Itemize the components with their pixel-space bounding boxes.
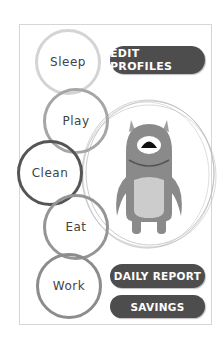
savings-button[interactable]: SAVINGS — [110, 295, 205, 318]
activity-label: Eat — [65, 220, 86, 234]
activity-eat[interactable]: Eat — [43, 194, 109, 260]
edit-profiles-button[interactable]: EDIT PROFILES — [110, 46, 205, 74]
activity-label: Sleep — [50, 55, 86, 69]
activity-label: Work — [53, 279, 85, 293]
daily-report-label: DAILY REPORT — [114, 270, 201, 282]
daily-report-button[interactable]: DAILY REPORT — [110, 264, 205, 288]
activity-label: Play — [62, 114, 89, 128]
savings-label: SAVINGS — [130, 301, 184, 313]
edit-profiles-label: EDIT PROFILES — [110, 47, 205, 73]
activity-sleep[interactable]: Sleep — [35, 29, 101, 95]
monster-avatar[interactable] — [115, 118, 183, 236]
activity-work[interactable]: Work — [36, 253, 102, 319]
activity-label: Clean — [32, 166, 69, 180]
